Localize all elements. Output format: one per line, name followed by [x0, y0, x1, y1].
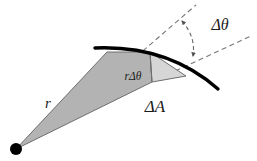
origin-vertex-dot [10, 143, 22, 155]
label-swept-area: ΔA [144, 97, 166, 116]
figure-canvas: r rΔθ ΔA Δθ [0, 0, 257, 161]
label-radius: r [45, 95, 51, 111]
label-delta-theta: Δθ [210, 16, 228, 33]
label-arc-length: rΔθ [125, 70, 142, 82]
geometry-figure: r rΔθ ΔA Δθ [0, 0, 257, 161]
